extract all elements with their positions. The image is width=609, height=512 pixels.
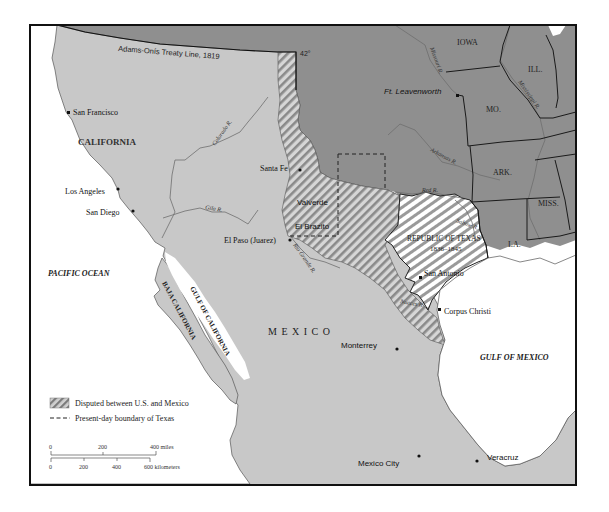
legend-disputed-swatch [50, 398, 69, 408]
city-label-valverde: Valverde [297, 198, 329, 207]
region-mexico: M E X I C O [268, 326, 331, 337]
city-label-corpus-christi: Corpus Christi [444, 307, 492, 316]
city-marker-los-angeles [116, 187, 119, 190]
region-california: CALIFORNIA [78, 137, 137, 147]
label-pacific-ocean: PACIFIC OCEAN [48, 269, 111, 278]
legend-disputed-label: Disputed between U.S. and Mexico [75, 399, 189, 408]
city-label-ft-leavenworth: Ft. Leavenworth [384, 87, 442, 96]
city-label-santa-fe: Santa Fe [260, 164, 288, 173]
label-gulf-of-mexico: GULF OF MEXICO [480, 353, 549, 362]
city-marker-san-francisco [67, 111, 70, 114]
city-label-san-francisco: San Francisco [73, 108, 118, 117]
region-arkansas: ARK. [493, 168, 512, 177]
scale-miles-200: 200 [98, 444, 107, 450]
scale-miles-400: 400 miles [150, 444, 174, 450]
latitude-label: 42° [300, 50, 311, 57]
region-illinois: ILL. [528, 65, 542, 74]
city-label-san-antonio: San Antonio [424, 269, 464, 278]
city-label-san-diego: San Diego [86, 208, 120, 217]
scale-km-200: 200 [79, 464, 88, 470]
region-louisiana: LA. [508, 240, 521, 249]
scale-miles-0: 0 [49, 444, 52, 450]
city-marker-mexico-city [417, 454, 420, 457]
region-republic-of-texas: REPUBLIC OF TEXAS [407, 234, 481, 243]
mexican-war-map: Adams-Onís Treaty Line, 1819 42° CALIFOR… [0, 0, 609, 512]
city-marker-santa-fe [298, 168, 301, 171]
scale-km-600: 600 kilometers [144, 464, 180, 470]
scale-km-0: 0 [49, 464, 52, 470]
city-label-mexico-city: Mexico City [358, 459, 399, 468]
city-marker-ft-leavenworth [456, 94, 459, 97]
city-marker-veracruz [475, 459, 478, 462]
city-label-el-brazito: El Brazito [295, 222, 330, 231]
legend-boundary-label: Present-day boundary of Texas [75, 414, 174, 423]
city-marker-corpus-christi [438, 308, 441, 311]
label-red-river: Red R. [421, 187, 438, 193]
region-missouri: MO. [486, 105, 501, 114]
city-marker-monterrey [395, 347, 398, 350]
scale-km-400: 400 [112, 464, 121, 470]
city-marker-san-antonio [419, 276, 422, 279]
city-marker-el-paso [288, 238, 291, 241]
region-mississippi: MISS. [538, 199, 559, 208]
city-label-los-angeles: Los Angeles [65, 187, 105, 196]
city-label-el-paso: El Paso (Juarez) [224, 236, 276, 245]
region-iowa: IOWA [457, 38, 478, 47]
city-label-monterrey: Monterrey [341, 341, 377, 350]
city-label-veracruz: Veracruz [487, 453, 519, 462]
city-marker-san-diego [131, 209, 134, 212]
region-texas-years: 1836–1845 [430, 245, 462, 253]
